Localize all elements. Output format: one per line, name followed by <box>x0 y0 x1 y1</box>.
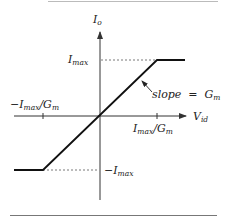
x-axis-label: Vid <box>193 111 208 124</box>
y-axis-label-sub: o <box>97 18 102 27</box>
x-axis-label-sub: id <box>201 115 208 124</box>
neg-x-tick-prefix: − <box>10 98 19 111</box>
neg-x-tick-sub2: m <box>52 103 59 112</box>
neg-x-tick-sub: max <box>24 103 40 112</box>
pos-x-tick-label: Imax/Gm <box>133 123 173 136</box>
pos-x-tick-sub2: m <box>166 127 173 136</box>
bottom-rule <box>10 215 217 216</box>
slope-label-sub: m <box>213 93 220 102</box>
neg-imax-label-prefix: − <box>104 164 113 177</box>
x-axis-label-main: V <box>193 110 201 123</box>
slope-annotation-arrow <box>142 81 152 92</box>
neg-imax-label: −Imax <box>104 165 133 178</box>
slope-label-text: slope = G <box>152 88 213 101</box>
pos-x-tick-sub: max <box>137 127 153 136</box>
neg-x-tick-label: −Imax/Gm <box>10 99 59 112</box>
slope-label: slope = Gm <box>152 89 220 102</box>
top-rule <box>48 1 218 2</box>
y-axis-label: Io <box>93 14 102 27</box>
neg-imax-label-sub: max <box>118 169 134 178</box>
neg-x-tick-mid: /G <box>39 98 52 111</box>
pos-x-tick-mid: /G <box>153 122 166 135</box>
imax-label-sub: max <box>72 58 88 67</box>
imax-label: Imax <box>68 54 88 67</box>
